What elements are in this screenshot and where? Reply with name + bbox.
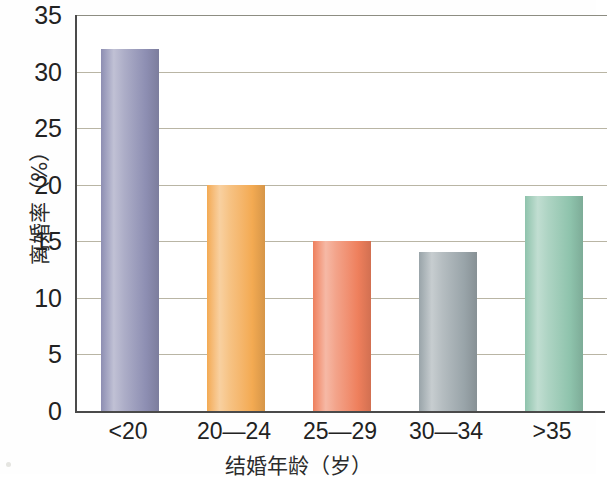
y-axis-tick-label: 30 xyxy=(34,59,62,84)
x-axis-tick-label: <20 xyxy=(75,418,181,445)
y-axis-tick-label: 0 xyxy=(48,398,62,423)
plot-area xyxy=(75,15,605,413)
bar xyxy=(101,49,159,411)
scan-artifact xyxy=(6,462,11,467)
y-axis-tick-label: 35 xyxy=(34,3,62,28)
bar-fill xyxy=(313,241,371,411)
bar-fill xyxy=(419,252,477,410)
y-axis-tick-label: 10 xyxy=(34,285,62,310)
bar-fill xyxy=(101,49,159,411)
bar xyxy=(525,196,583,411)
y-axis-tick-label: 5 xyxy=(48,342,62,367)
x-axis-tick-label: >35 xyxy=(499,418,605,445)
y-axis-tick-label: 15 xyxy=(34,229,62,254)
y-axis-tick-labels: 05101520253035 xyxy=(0,0,70,474)
x-axis-tick-label: 25—29 xyxy=(287,418,393,445)
y-axis-tick-label: 20 xyxy=(34,172,62,197)
x-axis-tick-labels: <2020—2425—2930—34>35 xyxy=(75,418,605,452)
bar xyxy=(313,241,371,411)
bar xyxy=(207,185,265,411)
bar-fill xyxy=(525,196,583,411)
x-axis-tick-label: 30—34 xyxy=(393,418,499,445)
bar xyxy=(419,252,477,410)
x-axis-tick-label: 20—24 xyxy=(181,418,287,445)
bar-series xyxy=(77,15,607,411)
scan-artifact xyxy=(140,436,143,439)
x-axis-title: 结婚年龄（岁） xyxy=(0,449,596,479)
y-axis-tick-label: 25 xyxy=(34,116,62,141)
bar-fill xyxy=(207,185,265,411)
